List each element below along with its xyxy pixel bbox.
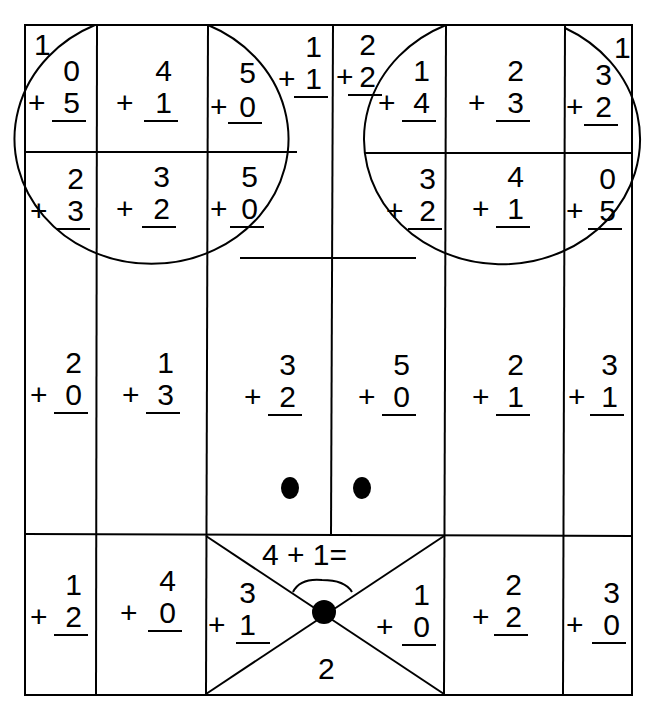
problem: 2 + 2: [472, 570, 522, 640]
problem: 2 + 1: [472, 350, 524, 420]
worksheet-grid-lines: [0, 0, 654, 716]
problem: 3 + 2: [116, 162, 170, 232]
problem: 5 + 0: [358, 350, 410, 420]
problem: 4 + 1: [472, 162, 524, 232]
worksheet: 1 1 0 + 5 4 + 1 5 + 0 1 + 1 2 + 2 1 + 4 …: [0, 0, 654, 716]
problem: 0 + 5: [28, 56, 80, 126]
problem: 3 + 1: [568, 350, 618, 420]
problem: 1 + 0: [376, 580, 430, 650]
problem: 4 + 1: [116, 56, 172, 126]
problem: 2 + 0: [30, 348, 82, 418]
problem: 0 + 5: [566, 164, 616, 234]
problem: 3 + 2: [566, 60, 612, 130]
problem: 3 + 2: [244, 350, 296, 420]
problem: 2 + 3: [30, 164, 84, 234]
problem: 5 + 0: [210, 162, 258, 232]
problem: 1 + 3: [122, 348, 174, 418]
problem: 3 + 1: [208, 578, 264, 648]
problem: 3 + 0: [566, 578, 620, 648]
mouth-number: 2: [318, 654, 335, 684]
problem: 3 + 2: [386, 164, 436, 234]
nose-equation: 4 + 1=: [262, 540, 347, 570]
problem: 1 + 2: [30, 570, 82, 640]
corner-number: 1: [614, 33, 631, 63]
problem: 5 + 0: [210, 66, 256, 126]
problem: 2 + 2: [336, 30, 376, 100]
problem: 1 + 1: [278, 32, 322, 102]
problem: 1 + 4: [378, 56, 430, 126]
problem: 2 + 3: [468, 56, 524, 126]
problem: 4 + 0: [120, 566, 176, 636]
